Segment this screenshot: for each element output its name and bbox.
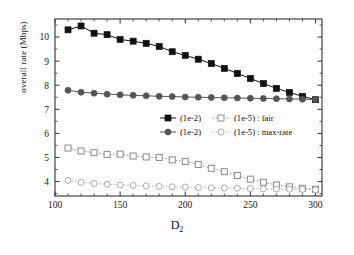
x-tick-label: 300	[308, 200, 323, 210]
series-point-2	[65, 145, 71, 151]
series-point-1	[286, 96, 292, 102]
series-point-0	[130, 38, 136, 44]
legend-marker-filled-square	[165, 115, 171, 121]
series-point-0	[156, 43, 162, 49]
y-tick-label: 6	[44, 129, 49, 139]
x-tick-label: 100	[48, 200, 63, 210]
series-point-3	[195, 185, 201, 191]
series-point-3	[130, 182, 136, 188]
series-point-2	[260, 179, 266, 185]
series-point-2	[169, 157, 175, 163]
series-point-1	[169, 94, 175, 100]
legend-right-label-1: (1e-5) : max-rate	[234, 127, 292, 137]
series-point-3	[221, 185, 227, 191]
series-point-0	[169, 49, 175, 55]
series-point-3	[169, 184, 175, 190]
series-point-1	[234, 95, 240, 101]
legend-marker-filled-circle	[165, 129, 171, 135]
x-tick-label: 150	[113, 200, 128, 210]
series-point-3	[234, 185, 240, 191]
series-point-2	[195, 161, 201, 167]
series-point-1	[221, 95, 227, 101]
series-point-1	[91, 90, 97, 96]
legend-marker-open-square	[218, 115, 224, 121]
series-point-3	[182, 184, 188, 190]
series-point-0	[182, 52, 188, 58]
chart-figure: overall rate (Mbps) D2 10015020025030045…	[0, 0, 354, 255]
series-point-0	[208, 61, 214, 67]
series-point-3	[91, 180, 97, 186]
series-point-1	[156, 93, 162, 99]
y-tick-label: 8	[44, 81, 49, 91]
series-point-3	[208, 185, 214, 191]
series-point-0	[104, 32, 110, 38]
series-point-2	[182, 159, 188, 165]
series-point-3	[117, 182, 123, 188]
series-point-2	[234, 173, 240, 179]
series-point-0	[117, 36, 123, 42]
series-point-0	[65, 27, 71, 33]
series-point-1	[195, 94, 201, 100]
series-point-2	[130, 153, 136, 159]
series-point-0	[273, 85, 279, 91]
series-point-0	[221, 65, 227, 71]
series-point-2	[104, 151, 110, 157]
y-tick-label: 4	[44, 177, 49, 187]
series-point-2	[143, 154, 149, 160]
series-point-2	[117, 151, 123, 157]
y-tick-label: 10	[40, 32, 50, 42]
series-point-1	[104, 91, 110, 97]
series-point-2	[221, 169, 227, 175]
series-point-1	[182, 94, 188, 100]
series-point-3	[312, 187, 318, 193]
series-point-1	[208, 95, 214, 101]
series-point-1	[273, 96, 279, 102]
series-point-3	[273, 186, 279, 192]
series-point-0	[234, 70, 240, 76]
x-tick-label: 250	[243, 200, 258, 210]
series-point-1	[312, 96, 318, 102]
series-point-0	[195, 56, 201, 62]
y-tick-label: 5	[44, 153, 49, 163]
series-point-1	[299, 96, 305, 102]
series-point-2	[156, 154, 162, 160]
plot-frame	[55, 19, 322, 196]
plot-area: 10015020025030045678910(1e-2)(1e-5) : fa…	[0, 0, 354, 255]
series-point-3	[247, 186, 253, 192]
series-point-3	[260, 186, 266, 192]
series-point-1	[143, 93, 149, 99]
series-point-1	[78, 89, 84, 95]
series-point-0	[91, 30, 97, 36]
series-point-0	[143, 40, 149, 46]
series-point-2	[247, 176, 253, 182]
y-tick-label: 7	[44, 105, 49, 115]
series-point-3	[286, 186, 292, 192]
legend-marker-open-circle	[218, 129, 224, 135]
legend-left-label-1: (1e-2)	[180, 127, 201, 137]
series-point-3	[299, 186, 305, 192]
series-point-2	[91, 150, 97, 156]
series-point-3	[143, 183, 149, 189]
series-point-1	[117, 92, 123, 98]
series-point-1	[65, 87, 71, 93]
series-point-2	[78, 148, 84, 154]
legend-left-label-0: (1e-2)	[180, 113, 201, 123]
series-point-1	[260, 95, 266, 101]
x-tick-label: 200	[178, 200, 193, 210]
series-point-2	[208, 165, 214, 171]
series-point-3	[78, 179, 84, 185]
y-tick-label: 9	[44, 57, 49, 67]
series-point-0	[78, 23, 84, 29]
series-point-0	[247, 75, 253, 81]
series-point-1	[247, 95, 253, 101]
series-point-3	[65, 177, 71, 183]
series-point-1	[130, 92, 136, 98]
series-point-3	[104, 181, 110, 187]
series-point-3	[156, 183, 162, 189]
legend-right-label-0: (1e-5) : fair	[234, 113, 274, 123]
series-point-0	[286, 89, 292, 95]
series-point-0	[260, 81, 266, 87]
